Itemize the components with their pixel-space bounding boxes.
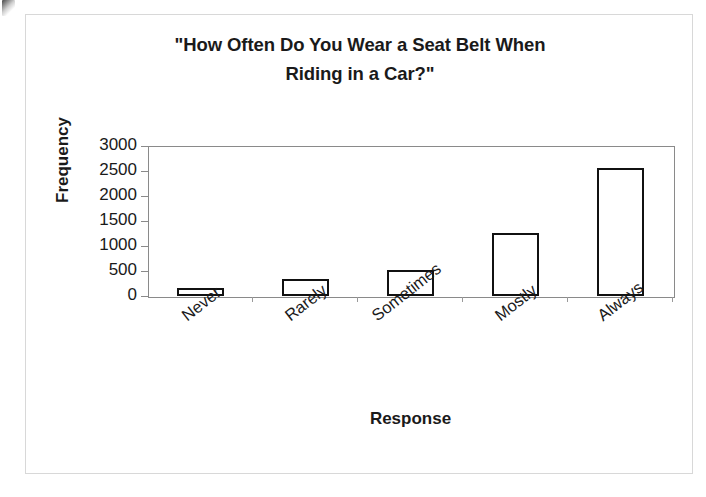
x-axis-label-cell: Mostly xyxy=(463,300,568,370)
y-axis-tick-label: 1000 xyxy=(99,235,137,255)
chart-title-line-1: "How Often Do You Wear a Seat Belt When xyxy=(60,30,660,59)
bar-slot xyxy=(463,146,568,296)
y-axis-ticks: 300025002000150010005000 xyxy=(100,146,148,296)
x-axis-category-labels: NeverRarelySometimesMostlyAlways xyxy=(148,300,673,370)
y-axis-tick-mark xyxy=(141,171,148,172)
y-axis-tick-mark xyxy=(141,246,148,247)
x-axis-label-cell: Never xyxy=(148,300,253,370)
y-axis-tick-label: 1500 xyxy=(99,210,137,230)
y-axis-tick-mark xyxy=(141,196,148,197)
y-axis-tick-mark xyxy=(141,271,148,272)
bar-slot xyxy=(253,146,358,296)
bar-slot xyxy=(358,146,463,296)
x-axis-title: Response xyxy=(148,409,673,429)
y-axis-tick-mark xyxy=(141,296,148,297)
y-axis-title: Frequency xyxy=(53,85,73,235)
chart-screenshot: "How Often Do You Wear a Seat Belt When … xyxy=(0,0,706,497)
x-axis-label-cell: Sometimes xyxy=(358,300,463,370)
bars-layer xyxy=(148,146,673,296)
y-axis-tick-mark xyxy=(141,221,148,222)
y-axis-tick-label: 500 xyxy=(109,260,137,280)
y-axis-tick-label: 3000 xyxy=(99,135,137,155)
y-axis-tick-label: 2500 xyxy=(99,160,137,180)
y-axis-tick-mark xyxy=(141,146,148,147)
scan-artifact xyxy=(2,0,15,16)
chart-title-line-2: Riding in a Car?" xyxy=(60,59,660,88)
bar-always[interactable] xyxy=(597,168,644,296)
x-axis-label-cell: Always xyxy=(568,300,673,370)
y-axis-tick-label: 0 xyxy=(128,285,137,305)
y-axis-tick-label: 2000 xyxy=(99,185,137,205)
chart-title: "How Often Do You Wear a Seat Belt When … xyxy=(60,30,660,88)
bar-slot xyxy=(148,146,253,296)
bar-slot xyxy=(568,146,673,296)
x-axis-label-cell: Rarely xyxy=(253,300,358,370)
